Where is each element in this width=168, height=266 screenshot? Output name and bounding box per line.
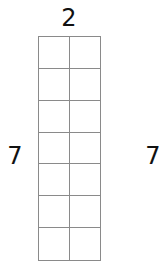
grid-cell bbox=[70, 101, 101, 133]
grid-cell bbox=[70, 196, 101, 228]
grid-cell bbox=[39, 164, 70, 196]
grid-cell bbox=[70, 133, 101, 165]
left-label-rows: 7 bbox=[7, 144, 22, 168]
grid-cell bbox=[70, 228, 101, 260]
top-label-columns: 2 bbox=[61, 6, 76, 30]
grid-cell bbox=[39, 196, 70, 228]
grid-cell bbox=[39, 228, 70, 260]
grid-cell bbox=[70, 164, 101, 196]
grid-cell bbox=[39, 69, 70, 101]
grid-cell bbox=[70, 69, 101, 101]
grid-cell bbox=[39, 37, 70, 69]
right-label-product: 7 bbox=[145, 144, 160, 168]
grid-cell bbox=[39, 101, 70, 133]
grid-cell bbox=[70, 37, 101, 69]
array-grid bbox=[38, 36, 101, 261]
grid-cell bbox=[39, 133, 70, 165]
